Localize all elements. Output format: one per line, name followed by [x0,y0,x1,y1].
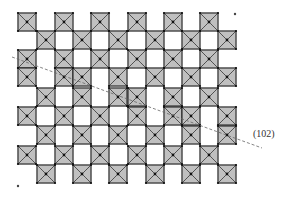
octahedron [36,164,56,184]
octahedron [108,30,128,50]
shear-plane-label: (102) [253,128,275,139]
octahedron [108,67,128,87]
octahedron [181,67,201,87]
octahedron [17,49,37,69]
octahedron [181,164,201,184]
octahedron [181,30,201,50]
octahedron [217,30,237,50]
octahedron [72,67,92,87]
octahedron [108,87,128,107]
octahedron [199,145,219,165]
octahedron [127,106,147,126]
octahedron [72,164,92,184]
octahedron [90,145,110,165]
octahedron [181,125,201,145]
octahedron [54,106,74,126]
octahedron [217,164,237,184]
octahedron [145,67,165,87]
octahedron [72,87,92,107]
octahedron [127,49,147,69]
octahedron [90,12,110,32]
octahedron [145,30,165,50]
octahedron [108,164,128,184]
octahedron [217,106,237,126]
shear-plane-diagram [0,0,290,198]
octahedron [199,12,219,32]
octahedron [17,67,37,87]
octahedron [54,145,74,165]
octahedron [199,49,219,69]
marker-dot [17,185,19,187]
octahedron [90,49,110,69]
octahedron [108,125,128,145]
octahedron [54,12,74,32]
octahedron [17,12,37,32]
octahedron [127,145,147,165]
octahedron [17,106,37,126]
octahedron [127,87,147,107]
octahedron [163,87,183,107]
octahedron [36,125,56,145]
octahedron [36,87,56,107]
octahedra-layer [17,12,237,184]
octahedron [90,106,110,126]
octahedron [163,145,183,165]
octahedron [199,87,219,107]
octahedron [17,145,37,165]
octahedron [181,106,201,126]
octahedron [217,67,237,87]
octahedron [54,67,74,87]
octahedron [163,12,183,32]
marker-dot [234,13,236,15]
octahedron [163,49,183,69]
octahedron [72,30,92,50]
octahedron [72,125,92,145]
octahedron [54,49,74,69]
octahedron [127,12,147,32]
octahedron [217,125,237,145]
octahedron [145,164,165,184]
octahedron [36,30,56,50]
octahedron [145,125,165,145]
